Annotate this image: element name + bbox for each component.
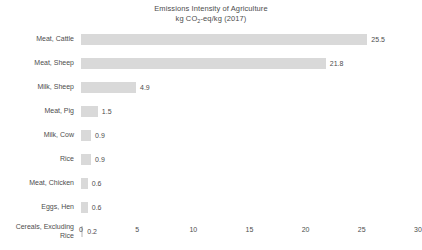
bar-value-label: 4.9 bbox=[140, 84, 150, 92]
x-axis-tick-label: 5 bbox=[135, 226, 139, 234]
bar-row: Rice0.9 bbox=[0, 149, 422, 170]
bar-container: 1.5 bbox=[81, 101, 112, 122]
chart-subtitle: kg CO2-eq/kg (2017) bbox=[0, 14, 422, 24]
bar-value-label: 1.5 bbox=[102, 108, 112, 116]
bar[interactable] bbox=[81, 154, 91, 165]
chart-title-block: Emissions Intensity of Agriculture kg CO… bbox=[0, 4, 422, 24]
bar-row: Meat, Pig1.5 bbox=[0, 101, 422, 122]
x-axis-tick-label: 25 bbox=[358, 226, 366, 234]
bar-value-label: 0.6 bbox=[92, 180, 102, 188]
bar-chart: Emissions Intensity of Agriculture kg CO… bbox=[0, 0, 422, 250]
bar-row: Milk, Cow0.9 bbox=[0, 125, 422, 146]
bar[interactable] bbox=[81, 82, 136, 93]
bar-container: 0.9 bbox=[81, 149, 105, 170]
bar-row: Eggs, Hen0.6 bbox=[0, 197, 422, 218]
bar-container: 4.9 bbox=[81, 77, 150, 98]
x-axis-tick-label: 15 bbox=[246, 226, 254, 234]
x-axis-tick-label: 30 bbox=[414, 226, 422, 234]
category-label: Meat, Pig bbox=[0, 107, 74, 116]
plot-area: Meat, Cattle25.5Meat, Sheep21.8Milk, She… bbox=[0, 28, 422, 220]
category-label: Meat, Sheep bbox=[0, 59, 74, 68]
category-label: Milk, Sheep bbox=[0, 83, 74, 92]
bar[interactable] bbox=[81, 178, 88, 189]
category-label: Milk, Cow bbox=[0, 131, 74, 140]
chart-subtitle-subscript: 2 bbox=[197, 18, 200, 24]
chart-subtitle-suffix: -eq/kg (2017) bbox=[201, 14, 247, 23]
bar-row: Meat, Chicken0.6 bbox=[0, 173, 422, 194]
bar-value-label: 0.6 bbox=[92, 204, 102, 212]
bar[interactable] bbox=[81, 34, 367, 45]
x-axis-tick-label: 0 bbox=[79, 226, 83, 234]
x-axis: 051015202530 bbox=[0, 226, 422, 240]
bar-container: 21.8 bbox=[81, 53, 343, 74]
bar-container: 25.5 bbox=[81, 29, 385, 50]
bar-row: Meat, Cattle25.5 bbox=[0, 29, 422, 50]
bar-value-label: 21.8 bbox=[330, 60, 344, 68]
bar-value-label: 0.9 bbox=[95, 156, 105, 164]
bar-container: 0.6 bbox=[81, 197, 101, 218]
category-label: Rice bbox=[0, 155, 74, 164]
category-label: Eggs, Hen bbox=[0, 203, 74, 212]
category-label: Meat, Cattle bbox=[0, 35, 74, 44]
x-axis-tick-label: 10 bbox=[189, 226, 197, 234]
bar-container: 0.9 bbox=[81, 125, 105, 146]
bar[interactable] bbox=[81, 106, 98, 117]
chart-subtitle-prefix: kg CO bbox=[176, 14, 198, 23]
bar[interactable] bbox=[81, 130, 91, 141]
bar[interactable] bbox=[81, 58, 326, 69]
x-axis-tick-label: 20 bbox=[302, 226, 310, 234]
bar-row: Meat, Sheep21.8 bbox=[0, 53, 422, 74]
bar[interactable] bbox=[81, 202, 88, 213]
bar-row: Milk, Sheep4.9 bbox=[0, 77, 422, 98]
bar-value-label: 25.5 bbox=[371, 36, 385, 44]
category-label: Meat, Chicken bbox=[0, 179, 74, 188]
chart-title: Emissions Intensity of Agriculture bbox=[0, 4, 422, 14]
bar-value-label: 0.9 bbox=[95, 132, 105, 140]
bar-container: 0.6 bbox=[81, 173, 101, 194]
